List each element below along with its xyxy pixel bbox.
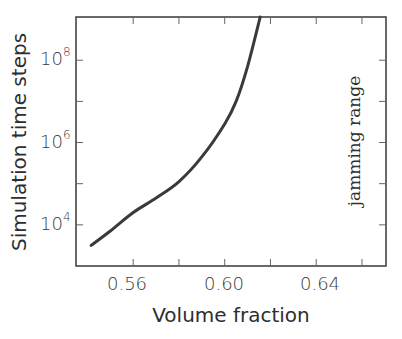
x-tick-label: 0.64	[300, 273, 340, 294]
chart: 0.56 0.60 0.64 104 106 108 Volume fracti…	[0, 0, 402, 339]
jamming-range-annotation: jamming range	[344, 76, 364, 208]
x-tick-label: 0.56	[107, 273, 147, 294]
y-tick-label: 104	[40, 210, 71, 234]
x-tick-labels: 0.56 0.60 0.64	[107, 273, 340, 294]
x-axis-label: Volume fraction	[152, 303, 310, 327]
axis-ticks	[76, 17, 386, 266]
x-tick-label: 0.60	[204, 273, 244, 294]
data-curve	[91, 17, 260, 245]
y-axis-label: Simulation time steps	[7, 33, 31, 251]
plot-frame	[76, 17, 386, 266]
y-tick-label: 108	[40, 45, 71, 69]
y-tick-labels: 104 106 108	[40, 45, 71, 234]
y-tick-label: 106	[40, 128, 71, 152]
